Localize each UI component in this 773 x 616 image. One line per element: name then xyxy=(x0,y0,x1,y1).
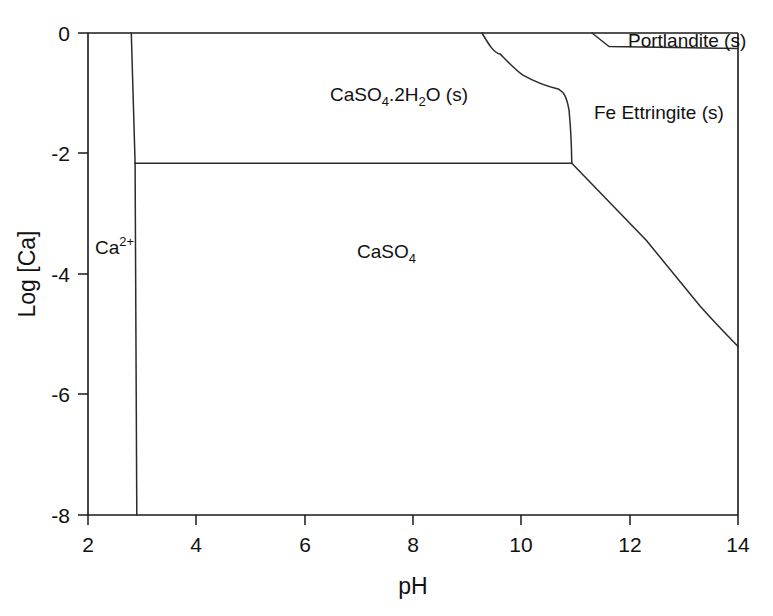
boundary-ca-gypsum xyxy=(131,33,135,163)
y-tick-label: -6 xyxy=(51,383,70,406)
predominance-diagram: 0 -2 -4 -6 -8 2 4 6 8 10 12 14 pH Log [C… xyxy=(0,0,773,616)
boundary-gypsum-ettringite xyxy=(482,33,572,163)
x-tick-labels: 2 4 6 8 10 12 14 xyxy=(82,533,750,556)
region-label-gypsum: CaSO4.2H2O (s) xyxy=(330,84,468,109)
x-tick-label: 2 xyxy=(82,533,94,556)
region-label-anhydrite: CaSO4 xyxy=(357,241,416,266)
x-tick-label: 10 xyxy=(509,533,532,556)
y-tick-label: -8 xyxy=(51,504,70,527)
gypsum-subscript-1: 4 xyxy=(382,94,389,109)
boundary-ca-caso4-vertical xyxy=(135,163,137,515)
y-tick-label: 0 xyxy=(58,22,70,45)
x-tick-label: 4 xyxy=(190,533,202,556)
region-label-fe-ettringite: Fe Ettringite (s) xyxy=(594,102,724,123)
chart-figure: 0 -2 -4 -6 -8 2 4 6 8 10 12 14 pH Log [C… xyxy=(0,0,773,616)
region-label-ca-ion: Ca2+ xyxy=(95,234,134,258)
y-tick-marks xyxy=(78,33,88,515)
x-tick-label: 14 xyxy=(726,533,750,556)
boundary-caso4-ettringite xyxy=(572,163,738,346)
y-tick-labels: 0 -2 -4 -6 -8 xyxy=(51,22,70,527)
anhydrite-subscript-1: 4 xyxy=(409,251,416,266)
gypsum-part-3: O (s) xyxy=(426,84,468,105)
anhydrite-part-1: CaSO xyxy=(357,241,409,262)
x-tick-label: 8 xyxy=(407,533,419,556)
region-label-portlandite: Portlandite (s) xyxy=(628,30,746,51)
x-tick-marks xyxy=(88,515,738,525)
y-axis-title: Log [Ca] xyxy=(14,231,40,318)
x-tick-label: 6 xyxy=(299,533,311,556)
ca-ion-base: Ca xyxy=(95,237,120,258)
x-tick-label: 12 xyxy=(618,533,641,556)
ca-ion-superscript: 2+ xyxy=(119,234,134,249)
gypsum-subscript-2: 2 xyxy=(419,94,426,109)
gypsum-part-1: CaSO xyxy=(330,84,382,105)
y-tick-label: -4 xyxy=(51,263,70,286)
y-tick-label: -2 xyxy=(51,142,70,165)
gypsum-part-2: .2H xyxy=(389,84,419,105)
x-axis-title: pH xyxy=(398,573,427,599)
